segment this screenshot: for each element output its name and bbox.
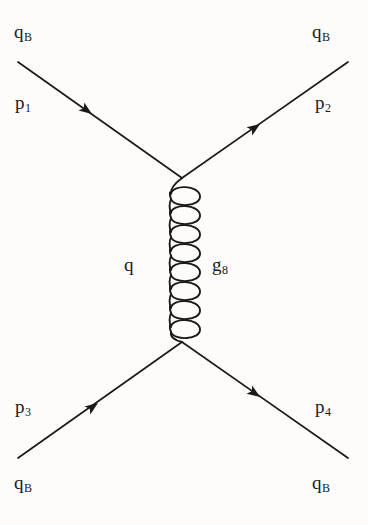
label-propagator-left-sub bbox=[134, 263, 135, 277]
label-incoming-lower-momentum: p3 bbox=[15, 397, 31, 418]
label-outgoing-lower-momentum-sub: 4 bbox=[325, 405, 332, 419]
gluon-loop-8 bbox=[170, 320, 200, 338]
label-incoming-upper-momentum-base: p bbox=[15, 92, 25, 113]
label-outgoing-upper-particle-sub: B bbox=[322, 30, 331, 44]
label-propagator-left: q bbox=[124, 255, 134, 276]
gluon-coil-loops bbox=[170, 178, 201, 342]
gluon-loop-7 bbox=[170, 301, 200, 319]
label-outgoing-lower-momentum: p4 bbox=[315, 397, 331, 418]
label-outgoing-lower-momentum-base: p bbox=[315, 396, 325, 417]
label-propagator-left-base: q bbox=[124, 254, 134, 275]
label-outgoing-upper-particle-base: q bbox=[312, 21, 322, 42]
label-propagator-right-base: g bbox=[212, 254, 222, 275]
gluon-loop-1 bbox=[170, 187, 200, 205]
label-incoming-upper-particle-base: q bbox=[14, 21, 24, 42]
label-incoming-lower-momentum-sub: 3 bbox=[25, 405, 32, 419]
label-outgoing-lower-particle: qB bbox=[312, 473, 330, 494]
label-incoming-lower-particle-base: q bbox=[14, 472, 24, 493]
incoming-upper-fermion-line bbox=[18, 62, 182, 178]
gluon-loop-3 bbox=[170, 225, 200, 243]
label-incoming-lower-momentum-base: p bbox=[15, 396, 25, 417]
gluon-loop-4 bbox=[170, 244, 200, 262]
arrow-incoming-upper-icon bbox=[79, 102, 95, 118]
incoming-lower-fermion-line bbox=[18, 342, 182, 458]
gluon-loop-6 bbox=[170, 282, 200, 300]
label-incoming-lower-particle-sub: B bbox=[24, 481, 33, 495]
gluon-loop-2 bbox=[170, 206, 200, 224]
label-incoming-upper-momentum-sub: 1 bbox=[25, 101, 32, 115]
label-propagator-right-sub: 8 bbox=[222, 263, 229, 277]
label-incoming-upper-momentum: p1 bbox=[15, 93, 31, 114]
gluon-loop-5 bbox=[170, 263, 200, 281]
label-incoming-upper-particle: qB bbox=[14, 22, 32, 43]
feynman-diagram-canvas: qB p1 qB p2 q g8 p3 qB p4 qB bbox=[0, 0, 368, 525]
label-outgoing-upper-particle: qB bbox=[312, 22, 330, 43]
label-outgoing-upper-momentum-sub: 2 bbox=[325, 101, 332, 115]
label-outgoing-lower-particle-base: q bbox=[312, 472, 322, 493]
label-outgoing-upper-momentum: p2 bbox=[315, 93, 331, 114]
diagram-vector-layer bbox=[0, 0, 368, 525]
label-incoming-upper-particle-sub: B bbox=[24, 30, 33, 44]
label-incoming-lower-particle: qB bbox=[14, 473, 32, 494]
label-outgoing-upper-momentum-base: p bbox=[315, 92, 325, 113]
label-propagator-right: g8 bbox=[212, 255, 228, 276]
label-outgoing-lower-particle-sub: B bbox=[322, 481, 331, 495]
outgoing-upper-fermion-line bbox=[182, 62, 348, 178]
